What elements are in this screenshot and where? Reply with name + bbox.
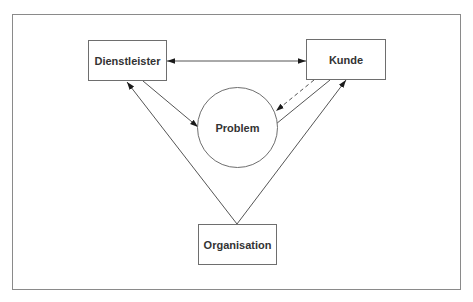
diagram-canvas: Dienstleister Kunde Problem Organisation [0,0,473,302]
edge-kunde-problem-solid [276,80,330,124]
node-problem[interactable]: Problem [197,87,278,168]
node-problem-label: Problem [215,122,259,134]
node-dienstleister[interactable]: Dienstleister [88,40,167,81]
node-kunde-label: Kunde [329,54,363,66]
node-organisation-label: Organisation [204,239,272,251]
node-organisation[interactable]: Organisation [198,224,277,265]
node-kunde[interactable]: Kunde [306,39,386,80]
edge-dienstleister-problem [143,81,198,127]
edge-kunde-problem-dashed [276,80,314,111]
node-dienstleister-label: Dienstleister [94,55,160,67]
